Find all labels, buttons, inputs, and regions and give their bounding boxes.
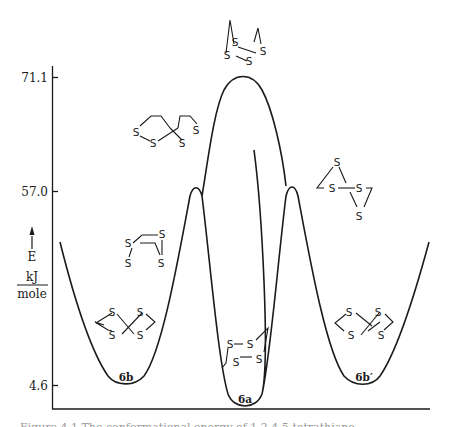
svg-text:S: S	[378, 329, 385, 341]
svg-text:S: S	[348, 329, 355, 341]
svg-text:S: S	[137, 329, 144, 341]
svg-text:S: S	[133, 126, 140, 138]
energy-diagram: 71.1 57.0 4.6 E kJ mole 6b 6a 6b′ S S S …	[0, 0, 452, 427]
svg-text:S: S	[334, 156, 341, 168]
energy-symbol: E	[28, 250, 37, 264]
arrowhead-icon	[30, 226, 35, 235]
svg-text:S: S	[179, 137, 186, 149]
svg-text:S: S	[256, 353, 263, 365]
tick-label-57: 57.0	[21, 185, 48, 199]
svg-text:S: S	[232, 36, 239, 48]
structure-upper-left-atoms: S S S S	[133, 124, 200, 149]
label-6a: 6a	[238, 393, 252, 405]
structure-upper-right	[317, 167, 372, 207]
svg-text:S: S	[109, 306, 116, 318]
svg-text:S: S	[193, 124, 200, 136]
unit-denominator: mole	[17, 287, 47, 301]
structure-left-boat-atoms: S S S S	[125, 228, 166, 269]
svg-text:S: S	[375, 306, 382, 318]
svg-text:S: S	[329, 182, 336, 194]
svg-text:S: S	[227, 338, 234, 350]
tick-label-4-6: 4.6	[29, 379, 48, 393]
svg-text:S: S	[246, 55, 253, 67]
structure-upper-left	[140, 116, 197, 141]
structure-upper-right-atoms: S S S S	[329, 156, 363, 222]
structure-6a-atoms: S S S S	[227, 338, 263, 368]
svg-text:S: S	[346, 306, 353, 318]
structure-6b-atoms: S S S S	[109, 306, 144, 341]
svg-text:S: S	[356, 182, 363, 194]
svg-text:S: S	[137, 306, 144, 318]
tick-label-71: 71.1	[21, 71, 48, 85]
svg-text:S: S	[260, 45, 267, 57]
svg-text:S: S	[247, 338, 254, 350]
svg-text:S: S	[109, 329, 116, 341]
unit-numerator: kJ	[26, 270, 38, 284]
svg-text:S: S	[356, 210, 363, 222]
svg-text:S: S	[158, 257, 165, 269]
svg-text:S: S	[125, 257, 132, 269]
structure-left-boat	[129, 235, 162, 257]
label-6b: 6b	[119, 371, 134, 383]
y-axis-unit-label: E kJ mole	[17, 226, 48, 301]
svg-text:S: S	[224, 49, 231, 61]
figure-caption-cropped: Figure 4.1 The conformational energy of …	[20, 418, 440, 427]
svg-text:S: S	[233, 356, 240, 368]
structure-6b	[95, 313, 155, 334]
svg-text:S: S	[125, 237, 132, 249]
svg-text:S: S	[150, 137, 157, 149]
svg-text:S: S	[159, 228, 166, 240]
label-6b-prime: 6b′	[355, 371, 373, 383]
